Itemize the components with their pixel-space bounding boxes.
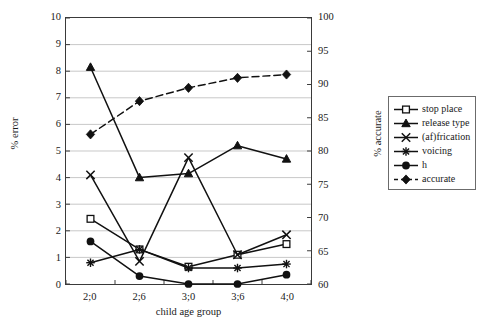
y-axis-left-tick-label: 3 [25,199,61,210]
data-series [66,18,311,284]
y-axis-left-tick-label: 4 [25,173,61,184]
plot-area [65,17,312,285]
y-axis-left-tick-label: 1 [25,253,61,264]
legend-item[interactable]: (af)frication [393,130,472,144]
y-axis-right-tick-label: 95 [318,45,352,56]
chart-legend: stop placerelease type(af)fricationvoici… [388,96,476,190]
y-axis-right-tick-label: 85 [318,112,352,123]
legend-item-label: (af)frication [422,132,470,142]
y-axis-right-tick-label: 100 [318,12,352,23]
y-axis-left-tick-label: 10 [25,12,61,23]
legend-item[interactable]: release type [393,116,472,130]
x-axis-tick-label: 4;0 [265,292,309,303]
y-axis-left-title: % error [9,104,20,164]
y-axis-right-tick-label: 80 [318,146,352,157]
y-axis-left-tick-label: 0 [25,280,61,291]
legend-item-label: voicing [422,146,452,156]
chart-figure: 012345678910 6065707580859095100 % error… [0,0,483,324]
y-axis-right-title: % accurate [372,102,383,166]
x-cross-marker [393,131,419,144]
y-axis-right-tick-label: 90 [318,79,352,90]
filled-circle-marker [393,159,419,172]
y-axis-left-tick-label: 8 [25,65,61,76]
y-axis-left-tick-label: 9 [25,39,61,50]
legend-item-label: accurate [422,174,455,184]
y-axis-left-tick-label: 5 [25,146,61,157]
asterisk-marker [393,145,419,158]
y-axis-right-tick-label: 75 [318,179,352,190]
y-axis-left-tick-label: 7 [25,92,61,103]
open-square-marker [393,103,419,116]
y-axis-left-tick-label: 2 [25,226,61,237]
legend-item-label: stop place [422,104,462,114]
y-axis-left-ticks: 012345678910 [21,17,61,285]
legend-item-label: h [422,160,427,170]
legend-item[interactable]: accurate [393,172,472,186]
y-axis-right-tick-label: 65 [318,246,352,257]
legend-item[interactable]: stop place [393,102,472,116]
y-axis-right-ticks: 6065707580859095100 [318,17,358,285]
filled-diamond-marker [393,173,419,186]
legend-item-label: release type [422,118,469,128]
x-axis-tick-label: 2;0 [68,292,112,303]
y-axis-right-tick-label: 70 [318,213,352,224]
legend-item[interactable]: h [393,158,472,172]
filled-triangle-marker [393,117,419,130]
y-axis-right-tick-label: 60 [318,280,352,291]
x-axis-tick-label: 3;0 [167,292,211,303]
x-axis-tick-label: 2;6 [117,292,161,303]
y-axis-left-tick-label: 6 [25,119,61,130]
x-axis-tick-label: 3;6 [216,292,260,303]
x-axis-title: child age group [65,306,312,317]
legend-item[interactable]: voicing [393,144,472,158]
